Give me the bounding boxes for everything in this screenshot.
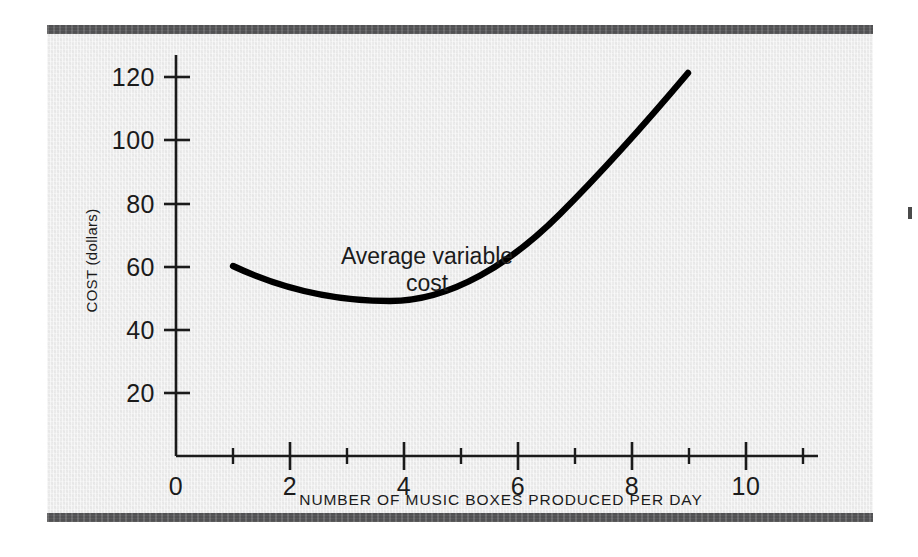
y-tick-label-20: 20 [60, 379, 155, 408]
average-variable-cost-label: Average variable cost [312, 243, 542, 297]
figure-page: 120 100 80 60 40 20 0 2 4 6 8 10 COST (d… [0, 0, 918, 557]
y-tick-label-40: 40 [60, 316, 155, 345]
page-edge-mark [908, 207, 912, 219]
y-tick-label-120: 120 [60, 63, 155, 92]
x-axis-title: NUMBER OF MUSIC BOXES PRODUCED PER DAY [176, 491, 826, 509]
y-tick-label-60: 60 [60, 253, 155, 282]
y-axis-title: COST (dollars) [83, 161, 100, 361]
y-tick-label-100: 100 [60, 126, 155, 155]
y-tick-label-80: 80 [60, 190, 155, 219]
